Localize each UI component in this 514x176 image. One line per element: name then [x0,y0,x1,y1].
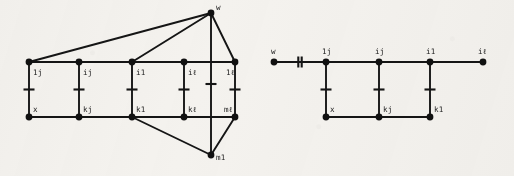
graph-figure: 1jiji1iℓ1ℓxkjk1kℓmℓwm1w1jiji1iℓxkjk1 [0,0,514,176]
graph-vertex [26,59,33,66]
vertex-label: i1 [136,68,146,77]
figure-page: 1jiji1iℓ1ℓxkjk1kℓmℓwm1w1jiji1iℓxkjk1 [0,0,514,176]
vertex-label: iℓ [188,68,197,77]
graph-vertex [232,114,239,121]
vertex-label: kℓ [188,105,197,114]
vertex-labels-layer: 1jiji1iℓ1ℓxkjk1kℓmℓwm1w1jiji1iℓxkjk1 [33,3,487,162]
vertex-label: 1j [322,47,331,56]
vertex-label: kj [383,105,392,114]
graph-vertex [208,10,215,17]
vertex-label: w [216,3,221,12]
vertex-label: m1 [216,153,226,162]
graph-vertex [129,114,136,121]
graph-vertex [181,59,188,66]
vertex-label: i1 [426,47,436,56]
vertex-label: ij [375,47,384,56]
graph-vertex [129,59,136,66]
graph-vertex [427,59,434,66]
vertex-label: k1 [434,105,444,114]
graph-vertex [480,59,487,66]
vertex-label: mℓ [224,105,233,114]
vertex-label: w [271,47,276,56]
vertex-label: kj [83,105,92,114]
edges-layer [29,13,483,155]
graph-vertex [208,152,215,159]
graph-edge [132,13,211,62]
graph-vertex [76,59,83,66]
vertex-label: k1 [136,105,146,114]
vertex-label: 1ℓ [226,68,235,77]
graph-vertex [181,114,188,121]
vertex-label: x [330,105,335,114]
vertex-label: 1j [33,68,42,77]
graph-vertex [376,59,383,66]
graph-vertex [76,114,83,121]
graph-vertex [232,59,239,66]
graph-vertex [427,114,434,121]
graph-vertex [271,59,278,66]
vertex-label: x [33,105,38,114]
graph-vertex [26,114,33,121]
graph-edge [211,117,235,155]
vertex-label: ij [83,68,92,77]
graph-edge [29,13,211,62]
graph-vertex [376,114,383,121]
graph-vertex [323,114,330,121]
vertices-layer [26,10,487,159]
graph-edge [211,13,235,62]
graph-edge [132,117,211,155]
graph-vertex [323,59,330,66]
vertex-label: iℓ [478,47,487,56]
